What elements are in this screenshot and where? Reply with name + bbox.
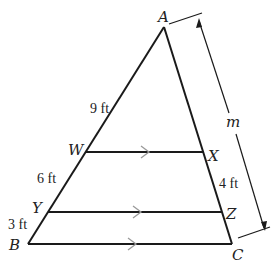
dimension-line-m-lower: [236, 134, 264, 228]
point-label-Y: Y: [32, 199, 44, 217]
arrowhead-up-icon: [196, 18, 202, 28]
triangle-diagram: A B C W Y X Z 9 ft 6 ft 3 ft 4 ft m: [0, 0, 275, 279]
vertex-label-C: C: [232, 246, 244, 264]
extension-line-A: [169, 13, 202, 24]
measure-AC-m: m: [226, 113, 240, 131]
point-label-W: W: [68, 141, 85, 159]
dimension-line-m-upper: [199, 21, 229, 113]
measure-YB: 3 ft: [8, 217, 27, 232]
point-label-X: X: [207, 147, 220, 165]
vertex-label-A: A: [156, 8, 169, 26]
measure-AW: 9 ft: [90, 101, 109, 116]
measure-XZ: 4 ft: [219, 176, 238, 191]
point-label-Z: Z: [225, 205, 237, 223]
vertex-label-B: B: [8, 236, 20, 254]
measure-WY: 6 ft: [37, 171, 56, 186]
